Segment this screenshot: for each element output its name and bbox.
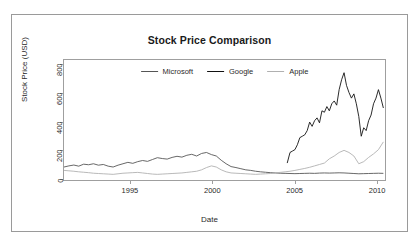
x-tick-label: 2000 [204,186,221,195]
page-title: Stock Price Comparison [12,34,407,46]
y-tick-label: 600 [56,93,65,106]
x-tick-mark [130,180,131,184]
legend-label: Microsoft [163,67,193,76]
series-canvas [64,60,385,180]
x-tick-mark [212,180,213,184]
line-series-google [287,73,383,163]
legend-item-google: Google [207,67,253,76]
legend-label: Google [229,67,253,76]
y-tick-label: 200 [56,150,65,163]
legend-line-icon [267,71,284,72]
figure-panel: Stock Price Comparison Stock Price (USD)… [11,14,408,232]
legend-line-icon [141,71,158,72]
x-tick-label: 2005 [286,186,303,195]
x-tick-mark [295,180,296,184]
x-tick-label: 1995 [122,186,139,195]
plot-area: MicrosoftGoogleApple 0200400600800 19952… [63,59,386,181]
y-tick-label: 0 [56,179,65,183]
x-tick-label: 2010 [369,186,386,195]
legend-item-microsoft: Microsoft [141,67,193,76]
legend-line-icon [207,71,224,72]
legend: MicrosoftGoogleApple [141,67,309,76]
legend-label: Apple [289,67,308,76]
y-axis-label: Stock Price (USD) [20,10,29,130]
y-tick-label: 400 [56,121,65,134]
x-tick-mark [377,180,378,184]
x-axis-label: Date [12,215,407,224]
line-series-apple [64,142,383,174]
y-tick-label: 800 [56,64,65,77]
legend-item-apple: Apple [267,67,308,76]
